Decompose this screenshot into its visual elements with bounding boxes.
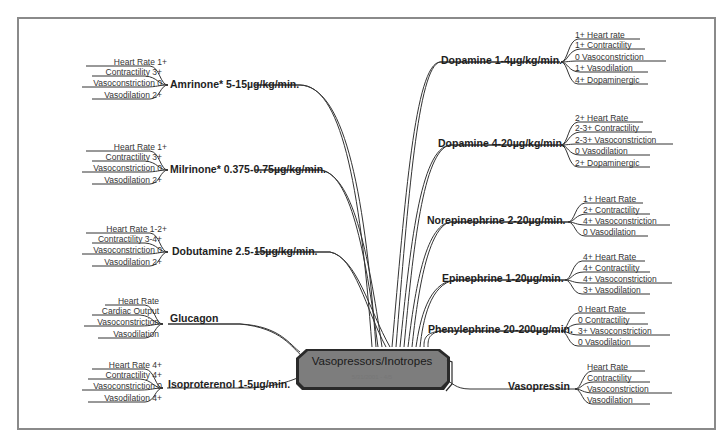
prop-contractility: 2-3+ Contractility	[575, 123, 639, 133]
prop-vasodilation: 3+ Vasodilation	[583, 285, 641, 295]
prop-heart-rate: Heart Rate	[118, 296, 159, 306]
prop-heart-rate: 0 Heart Rate	[578, 304, 626, 314]
prop-heart-rate: 1+ Heart rate	[575, 30, 625, 40]
prop-vasoconstriction: 0 Vasoconstriction	[575, 52, 644, 62]
prop-contractility: 0 Contractility	[578, 315, 630, 325]
prop-vasoconstriction: Vasoconstriction	[97, 317, 159, 327]
prop-vasoconstriction: Vasoconstriction 0	[93, 245, 162, 255]
prop-vasodilation: Vasodilation 4+	[104, 393, 162, 403]
prop-vasodilation: Vasodilation	[587, 395, 633, 405]
branch-glucagon[interactable]: Glucagon	[170, 312, 218, 324]
prop-heart-rate: Heart Rate	[587, 362, 628, 372]
prop-heart-rate: 2+ Heart Rate	[575, 113, 628, 123]
prop-heart-rate: Heart Rate 1+	[114, 142, 167, 152]
prop-vasoconstriction: Vasoconstriction 0	[93, 163, 162, 173]
prop-vasoconstriction: Vasoconstriction	[587, 384, 649, 394]
prop-dopaminergic: 2+ Dopaminergic	[575, 158, 640, 168]
prop-vasodilation: 1+ Vasodilation	[575, 63, 633, 73]
prop-vasoconstriction: Vasoconstriction 0	[93, 381, 162, 391]
branch-vasopressin[interactable]: Vasopressin	[508, 380, 570, 392]
central-node-title: Vasopressors/Inotropes	[297, 355, 447, 367]
prop-vasoconstriction: 2-3+ Vasoconstriction	[575, 135, 656, 145]
prop-heart-rate: 4+ Heart Rate	[583, 252, 636, 262]
prop-contractility: 4+ Contractility	[583, 263, 639, 273]
branch-norepinephrine[interactable]: Norepinephrine 2-20µg/min.	[427, 214, 566, 226]
branch-amrinone[interactable]: Amrinone* 5-15µg/kg/min.	[170, 78, 299, 90]
central-node-date: 5/31/2001 - 4/5	[297, 374, 447, 380]
prop-vasodilation: Vasodilation 2+	[104, 257, 162, 267]
prop-heart-rate: Heart Rate 1+	[114, 57, 167, 67]
prop-contractility: Contractility 3-4+	[98, 234, 162, 244]
branch-isoproterenol[interactable]: Isoproterenol 1-5µg/min.	[168, 378, 290, 390]
prop-heart-rate: Heart Rate 1-2+	[106, 224, 167, 234]
branch-dopamine-high[interactable]: Dopamine 4-20µg/kg/min.	[438, 137, 565, 149]
prop-vasoconstriction: Vasoconstriction 0	[93, 78, 162, 88]
branch-dopamine-low[interactable]: Dopamine 1-4µg/kg/min.	[441, 54, 562, 66]
prop-vasoconstriction: 4+ Vasoconstriction	[583, 216, 657, 226]
prop-contractility: Contractility 4+	[106, 370, 162, 380]
prop-vasoconstriction: 4+ Vasoconstriction	[583, 274, 657, 284]
prop-contractility: 1+ Contractility	[575, 40, 631, 50]
central-node[interactable]: Vasopressors/Inotropes 5/31/2001 - 4/5	[297, 347, 447, 389]
prop-vasodilation: 0 Vasodilation	[575, 146, 628, 156]
prop-vasodilation: 0 Vasodilation	[583, 227, 636, 237]
prop-vasodilation: Vasodilation 2+	[104, 90, 162, 100]
prop-cardiac-output: Cardiac Output	[102, 306, 159, 316]
prop-dopaminergic: 4+ Dopaminergic	[575, 75, 640, 85]
branch-milrinone[interactable]: Milrinone* 0.375-0.75µg/kg/min.	[170, 163, 326, 175]
prop-vasodilation: Vasodilation 2+	[104, 175, 162, 185]
prop-vasoconstriction: 3+ Vasoconstriction	[578, 326, 652, 336]
branch-epinephrine[interactable]: Epinephrine 1-20µg/min.	[442, 272, 564, 284]
prop-heart-rate: Heart Rate 4+	[109, 360, 162, 370]
branch-phenylephrine[interactable]: Phenylephrine 20-200µg/min.	[428, 323, 573, 335]
prop-vasodilation: 0 Vasodilation	[578, 337, 631, 347]
prop-vasodilation: Vasodilation	[113, 329, 159, 339]
prop-contractility: Contractility	[587, 373, 631, 383]
branch-dobutamine[interactable]: Dobutamine 2.5-15µg/kg/min.	[172, 245, 318, 257]
prop-heart-rate: 1+ Heart Rate	[583, 194, 636, 204]
prop-contractility: Contractility 3+	[106, 152, 162, 162]
prop-contractility: Contractility 3+	[106, 67, 162, 77]
prop-contractility: 2+ Contractility	[583, 205, 639, 215]
